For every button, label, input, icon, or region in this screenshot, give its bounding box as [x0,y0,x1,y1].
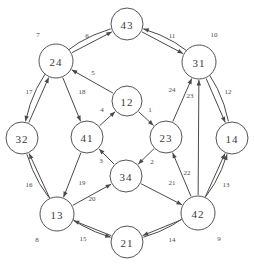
edge-21-to-13 [74,221,112,236]
edge-label-14: 14 [169,236,177,244]
arrowhead-43-to-32 [25,116,29,122]
node-31[interactable]: 31 [182,45,216,79]
edge-label-3: 3 [99,157,103,165]
node-13[interactable]: 13 [40,197,74,231]
node-42[interactable]: 42 [181,196,215,230]
node-43[interactable]: 43 [111,8,143,40]
edge-label-18: 18 [79,88,87,96]
graph-canvas: 432431321412412334134221 123456789101112… [0,0,254,265]
edge-43-to-31 [142,32,183,54]
node-41[interactable]: 41 [71,121,103,153]
arrowhead-24-to-41 [76,115,80,121]
edge-label-4: 4 [100,106,104,114]
edge-label-12: 12 [225,88,233,96]
edge-label-13: 13 [223,181,231,189]
edge-label-22: 22 [184,169,192,177]
edge-label-10: 10 [211,31,219,39]
edge-label-16: 16 [26,181,34,189]
node-label-31: 31 [193,57,206,69]
node-label-21: 21 [121,237,134,249]
edge-24-to-43 [72,32,112,53]
node-32[interactable]: 32 [6,122,38,154]
node-label-32: 32 [16,133,29,145]
edge-label-24: 24 [169,86,177,94]
edge-label-7: 7 [36,31,40,39]
edge-label-20: 20 [89,195,97,203]
edge-34-to-42 [141,184,182,205]
arrowhead-34-to-42 [176,200,182,204]
node-label-13: 13 [51,209,64,221]
node-label-42: 42 [192,208,205,220]
node-label-41: 41 [81,132,94,144]
edge-14-to-43 [143,29,228,121]
arrowhead-31-to-14 [221,116,225,122]
arrowhead-42-to-23 [173,153,177,159]
node-14[interactable]: 14 [216,122,248,154]
arrowhead-24-to-43 [106,32,112,36]
arrowhead-42-to-21 [143,231,149,235]
arrowhead-12-to-24 [72,70,78,75]
edge-label-9: 9 [217,235,221,243]
node-label-43: 43 [121,19,134,31]
edge-42-to-14 [205,153,225,196]
node-label-23: 23 [160,132,173,144]
edge-label-23: 23 [187,92,195,100]
edge-label-21: 21 [169,179,177,187]
arrowhead-41-to-13 [63,191,67,197]
nodes-layer: 432431321412412334134221 [6,8,248,258]
edge-41-to-13 [64,153,81,197]
node-label-14: 14 [226,133,239,145]
node-label-34: 34 [120,171,133,183]
node-34[interactable]: 34 [110,160,142,192]
edge-42-to-31 [198,80,199,195]
graph-diagram: 432431321412412334134221 123456789101112… [0,0,254,265]
arrowhead-32-to-24 [44,77,48,83]
edge-13-to-32 [29,153,49,197]
node-21[interactable]: 21 [111,226,143,258]
arrowhead-13-to-34 [105,184,111,189]
edge-label-1: 1 [148,106,152,114]
arrowhead-21-to-13 [74,221,80,225]
arrowhead-13-to-32 [29,153,33,159]
edge-24-to-41 [63,78,81,122]
arrowhead-43-to-31 [177,49,183,54]
node-24[interactable]: 24 [39,44,73,78]
arrowhead-42-to-14 [221,153,225,159]
node-23[interactable]: 23 [150,121,182,153]
arrowhead-42-to-31 [197,80,201,86]
edge-label-6: 6 [85,32,89,40]
node-label-12: 12 [121,96,134,108]
edge-label-8: 8 [35,236,39,244]
edge-42-to-21 [143,220,182,236]
edge-label-19: 19 [79,179,87,187]
edge-label-5: 5 [91,69,95,77]
node-12[interactable]: 12 [112,86,142,116]
arrowhead-14-to-43 [143,28,149,32]
edge-label-15: 15 [80,235,88,243]
edge-43-to-32 [26,29,111,121]
arrowhead-23-to-31 [188,78,192,84]
node-label-24: 24 [50,56,63,68]
edge-label-11: 11 [169,32,176,40]
edge-label-17: 17 [26,88,34,96]
edge-label-2: 2 [150,158,154,166]
